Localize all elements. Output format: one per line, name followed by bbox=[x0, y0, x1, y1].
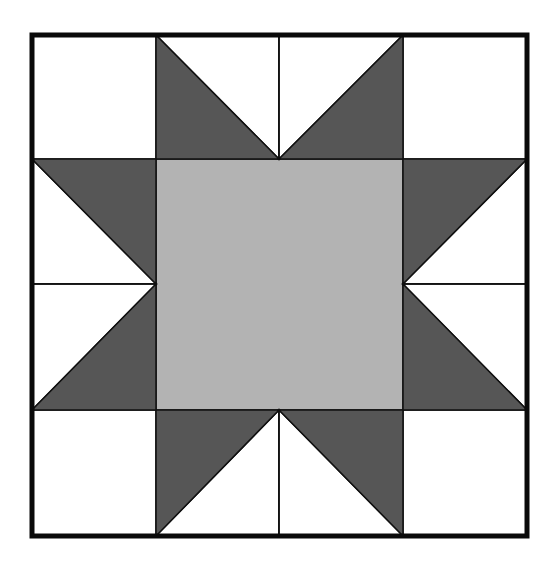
center-square bbox=[156, 159, 403, 410]
quilt-block-diagram bbox=[0, 0, 551, 576]
corner-square bbox=[403, 410, 527, 536]
corner-square bbox=[32, 35, 156, 159]
corner-square bbox=[403, 35, 527, 159]
corner-square bbox=[32, 410, 156, 536]
